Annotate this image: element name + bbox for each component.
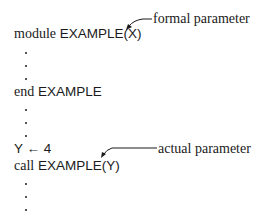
formal-parameter-arrow-icon: [126, 19, 152, 30]
annotation-arrows: [0, 0, 267, 221]
actual-parameter-arrow-icon: [101, 148, 157, 158]
